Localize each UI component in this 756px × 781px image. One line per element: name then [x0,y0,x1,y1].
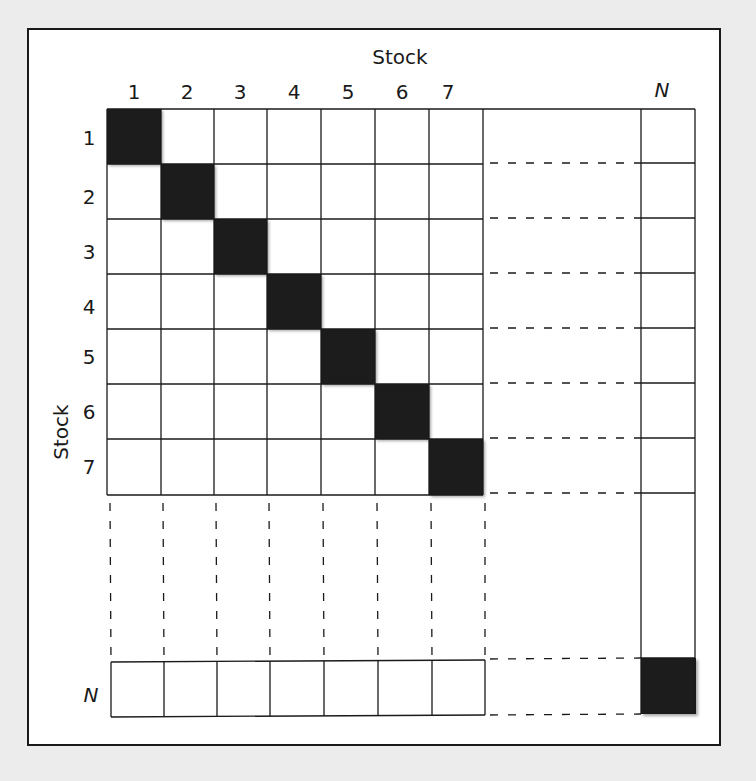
row-label: 5 [83,345,96,369]
diagonal-cell-4-4 [267,274,321,329]
row-label: 1 [83,126,96,150]
row-label: 3 [83,240,96,264]
column-label: 6 [396,80,409,104]
column-axis-title: Stock [372,45,428,69]
stock-matrix-diagram: Stock 1 2 3 4 5 6 7 N Stock 1 2 3 4 5 6 … [0,0,756,781]
column-label-n: N [655,78,670,102]
n-row [111,660,485,717]
row-label-n: N [84,683,99,707]
dashed-column-ellipsis [110,503,485,662]
row-label: 2 [83,185,96,209]
diagonal-cell-2-2 [161,164,214,219]
column-label: 7 [442,80,455,104]
diagonal-cell-3-3 [214,219,267,274]
column-label: 1 [128,80,141,104]
row-label: 6 [83,400,96,424]
dashed-row-ellipsis [490,163,641,715]
n-column [641,109,695,714]
diagonal-cells [107,109,696,714]
column-labels: 1 2 3 4 5 6 7 N [128,78,670,104]
row-axis-title: Stock [49,404,73,460]
diagonal-cell-6-6 [375,384,429,439]
column-label: 3 [234,80,247,104]
row-label: 7 [83,455,96,479]
column-label: 4 [288,80,301,104]
diagonal-cell-n-n [641,658,696,714]
row-label: 4 [83,295,96,319]
row-labels: 1 2 3 4 5 6 7 N [83,126,99,707]
diagonal-cell-1-1 [107,109,161,164]
diagonal-cell-5-5 [321,329,375,384]
column-label: 5 [342,80,355,104]
diagonal-cell-7-7 [429,439,483,495]
column-label: 2 [181,80,194,104]
